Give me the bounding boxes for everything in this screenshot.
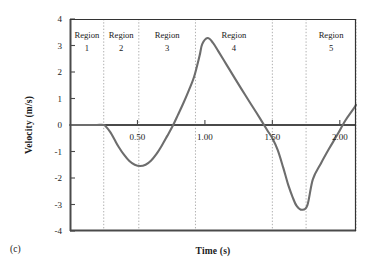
x-axis-title: Time (s) [196, 246, 231, 257]
y-tick-label: -1 [55, 147, 63, 157]
region-label-name: Region [74, 30, 100, 40]
y-tick-label: 1 [58, 94, 63, 104]
y-tick-label: -4 [55, 226, 63, 236]
y-tick-label: 3 [58, 41, 63, 51]
region-label-name: Region [109, 30, 135, 40]
y-tick-label: 2 [58, 67, 63, 77]
region-label-number: 4 [232, 43, 237, 53]
x-tick-label: 1.50 [264, 132, 280, 142]
region-label-number: 1 [85, 43, 89, 53]
region-label-name: Region [221, 30, 247, 40]
y-axis-tick-labels: 43210-1-2-3-4 [55, 14, 63, 236]
velocity-time-chart: 0.501.001.502.00 43210-1-2-3-4 Region1Re… [0, 0, 380, 264]
region-label-number: 2 [119, 43, 123, 53]
y-tick-label: -2 [55, 173, 63, 183]
x-tick-label: 1.00 [197, 132, 213, 142]
y-tick-label: -3 [55, 200, 63, 210]
x-tick-label: 0.50 [130, 132, 146, 142]
region-label-number: 5 [329, 43, 333, 53]
x-tick-label: 2.00 [332, 132, 348, 142]
region-label-number: 3 [165, 43, 169, 53]
y-tick-label: 4 [58, 14, 63, 24]
panel-label: (c) [10, 244, 21, 255]
region-label-name: Region [155, 30, 181, 40]
y-axis-title: Velocity (m/s) [24, 96, 35, 154]
region-label-name: Region [319, 30, 345, 40]
y-tick-label: 0 [58, 120, 63, 130]
figure-panel-c: 0.501.001.502.00 43210-1-2-3-4 Region1Re… [0, 0, 380, 264]
